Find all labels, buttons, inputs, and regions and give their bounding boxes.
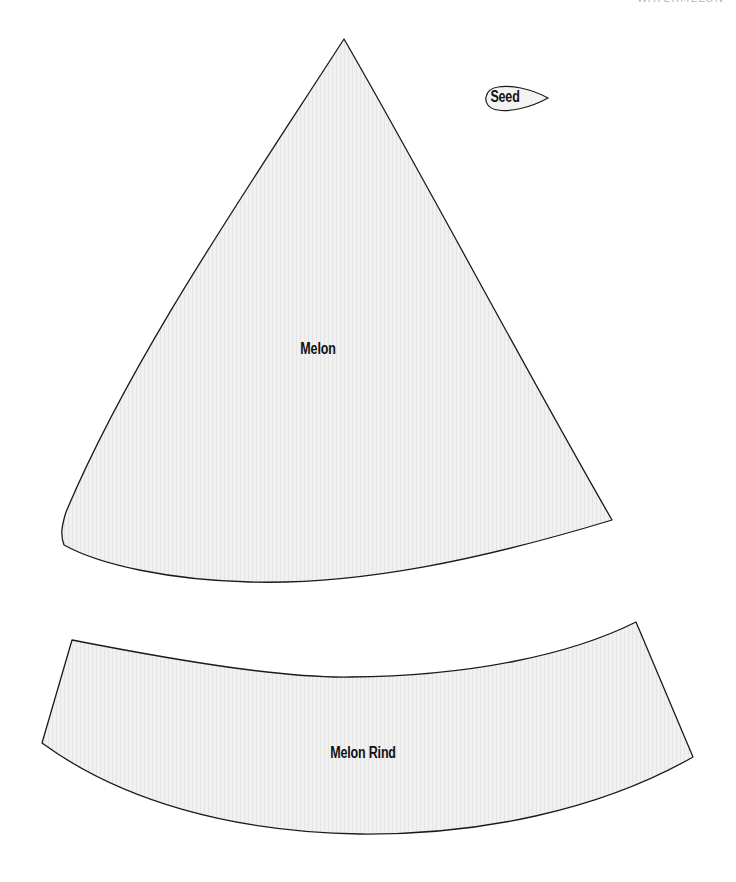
seed-label: Seed — [490, 88, 519, 106]
melon-label: Melon — [300, 340, 335, 358]
melon-rind-shape[interactable] — [42, 622, 693, 834]
pattern-page: WATERMELON Melon Melon Rind Seed — [0, 0, 736, 882]
melon-wedge-shape[interactable] — [62, 39, 612, 582]
melon-rind-label: Melon Rind — [330, 744, 396, 762]
